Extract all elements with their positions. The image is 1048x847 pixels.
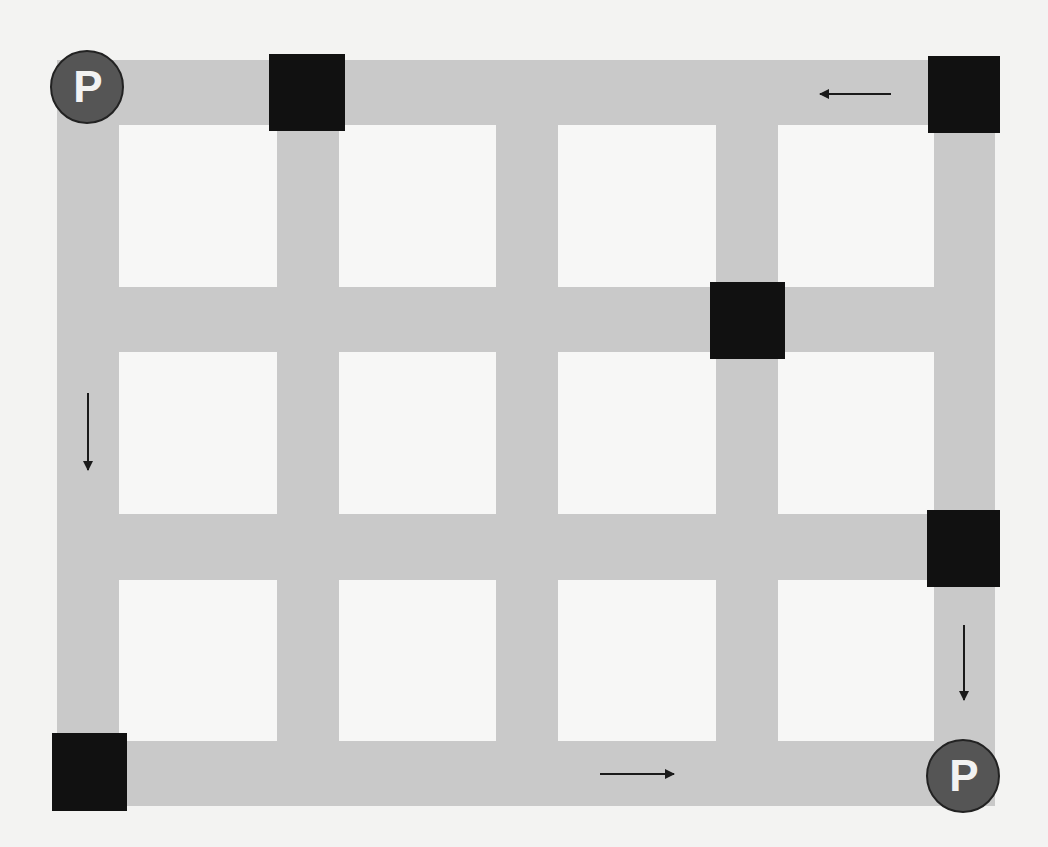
city-block (778, 125, 934, 287)
city-block (119, 352, 277, 514)
parking-icon: P (51, 51, 123, 123)
city-block (778, 580, 934, 741)
city-block (119, 580, 277, 741)
roadblock-square (928, 56, 1000, 133)
city-block (558, 580, 716, 741)
city-block (339, 580, 496, 741)
city-block (558, 352, 716, 514)
city-block (778, 352, 934, 514)
city-block (339, 125, 496, 287)
roadblock-square (710, 282, 785, 359)
street-grid-map: PP (0, 0, 1048, 847)
city-block (119, 125, 277, 287)
roadblock-square (927, 510, 1000, 587)
parking-icon: P (927, 740, 999, 812)
parking-label: P (73, 62, 102, 111)
roadblock-square (269, 54, 345, 131)
roads-layer (57, 60, 995, 806)
city-block (558, 125, 716, 287)
city-block (339, 352, 496, 514)
parking-label: P (949, 751, 978, 800)
roadblock-square (52, 733, 127, 811)
